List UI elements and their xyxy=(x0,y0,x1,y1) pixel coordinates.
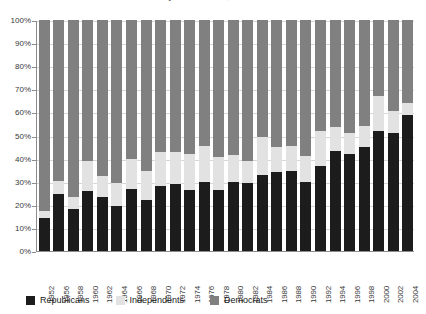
bar-segment-republicans-1978 xyxy=(213,190,224,251)
plot-area xyxy=(36,21,414,252)
bar-segment-republicans-1958 xyxy=(68,209,79,251)
y-axis-tick-label: 30% xyxy=(15,179,31,187)
bar-1980 xyxy=(228,20,239,251)
bar-segment-democrats-2002 xyxy=(388,20,399,111)
y-axis-tick-label: 100% xyxy=(11,17,31,25)
bar-segment-democrats-1992 xyxy=(315,20,326,131)
bar-segment-republicans-1994 xyxy=(330,151,341,251)
bar-2002 xyxy=(388,20,399,251)
bar-segment-republicans-1992 xyxy=(315,166,326,251)
legend-swatch-independents xyxy=(116,296,125,305)
legend-item-independents[interactable]: Independents xyxy=(116,295,185,305)
bar-1992 xyxy=(315,20,326,251)
bar-segment-independents-1986 xyxy=(271,147,282,172)
bar-segment-republicans-1964 xyxy=(111,206,122,251)
bar-segment-independents-1960 xyxy=(82,161,93,191)
legend-swatch-democrats xyxy=(210,296,219,305)
bar-segment-independents-1964 xyxy=(111,183,122,206)
gridline xyxy=(37,90,414,91)
bar-1976 xyxy=(199,20,210,251)
legend-label: Independents xyxy=(130,295,185,305)
bar-segment-republicans-1966 xyxy=(126,189,137,251)
bar-segment-democrats-1984 xyxy=(257,20,268,137)
bar-1970 xyxy=(155,20,166,251)
y-axis-tick-label: 20% xyxy=(15,202,31,210)
bar-segment-democrats-1968 xyxy=(141,20,152,171)
bar-segment-republicans-1968 xyxy=(141,200,152,251)
bar-segment-independents-1982 xyxy=(242,161,253,183)
bar-segment-republicans-1952 xyxy=(39,218,50,251)
bar-segment-independents-1966 xyxy=(126,159,137,189)
bar-segment-republicans-1956 xyxy=(53,194,64,251)
bar-segment-republicans-1974 xyxy=(184,190,195,251)
bar-1994 xyxy=(330,20,341,251)
bar-segment-independents-1968 xyxy=(141,171,152,200)
bar-1966 xyxy=(126,20,137,251)
bar-segment-independents-1996 xyxy=(344,133,355,154)
y-axis-tick-label: 60% xyxy=(15,109,31,117)
bar-segment-democrats-2004 xyxy=(402,20,413,103)
bar-1974 xyxy=(184,20,195,251)
bar-segment-democrats-1980 xyxy=(228,20,239,155)
bar-segment-independents-1958 xyxy=(68,197,79,210)
bar-segment-independents-1994 xyxy=(330,127,341,150)
legend-swatch-republicans xyxy=(26,296,35,305)
y-axis-tick-label: 50% xyxy=(15,133,31,141)
bar-segment-independents-1980 xyxy=(228,155,239,182)
gridline xyxy=(37,160,414,161)
legend-label: Democrats xyxy=(224,295,268,305)
bar-segment-republicans-1988 xyxy=(286,171,297,251)
bar-segment-independents-1992 xyxy=(315,131,326,166)
y-axis: 0%10%20%30%40%50%60%70%80%90%100% xyxy=(0,21,36,252)
legend-item-republicans[interactable]: Republicans xyxy=(26,295,90,305)
bar-segment-democrats-1964 xyxy=(111,20,122,183)
bar-segment-republicans-1962 xyxy=(97,197,108,251)
bar-segment-democrats-1988 xyxy=(286,20,297,146)
bar-segment-independents-1984 xyxy=(257,137,268,175)
bar-segment-democrats-1976 xyxy=(199,20,210,146)
bar-segment-democrats-1998 xyxy=(359,20,370,126)
gridline xyxy=(37,44,414,45)
bar-segment-republicans-2000 xyxy=(373,131,384,251)
bar-1998 xyxy=(359,20,370,251)
bar-segment-independents-1988 xyxy=(286,146,297,171)
bar-segment-democrats-1986 xyxy=(271,20,282,147)
bar-segment-independents-1976 xyxy=(199,146,210,182)
y-axis-tick-label: 90% xyxy=(15,40,31,48)
bar-segment-republicans-1996 xyxy=(344,154,355,251)
bar-segment-democrats-1972 xyxy=(170,20,181,152)
bar-2004 xyxy=(402,20,413,251)
bar-1960 xyxy=(82,20,93,251)
bar-segment-democrats-1994 xyxy=(330,20,341,127)
bar-segment-independents-1978 xyxy=(213,157,224,189)
bar-segment-independents-2002 xyxy=(388,111,399,133)
bar-segment-independents-2000 xyxy=(373,96,384,131)
stacked-bar-chart: Party Identification, 1952-2004 0%10%20%… xyxy=(0,0,426,314)
bar-1972 xyxy=(170,20,181,251)
bar-segment-democrats-1996 xyxy=(344,20,355,133)
y-axis-tick-label: 0% xyxy=(19,248,31,256)
bar-1988 xyxy=(286,20,297,251)
bar-segment-republicans-1982 xyxy=(242,183,253,251)
gridline xyxy=(37,183,414,184)
gridline xyxy=(37,21,414,22)
bar-segment-republicans-1980 xyxy=(228,182,239,251)
bar-segment-independents-1998 xyxy=(359,126,370,147)
bar-segment-republicans-1972 xyxy=(170,184,181,251)
y-axis-tick-label: 80% xyxy=(15,63,31,71)
bar-segment-democrats-1960 xyxy=(82,20,93,161)
y-axis-tick-label: 10% xyxy=(15,225,31,233)
bar-1956 xyxy=(53,20,64,251)
bar-segment-republicans-1976 xyxy=(199,182,210,251)
bar-segment-democrats-1958 xyxy=(68,20,79,197)
bar-segment-republicans-1998 xyxy=(359,147,370,251)
bar-2000 xyxy=(373,20,384,251)
bar-1964 xyxy=(111,20,122,251)
bar-1962 xyxy=(97,20,108,251)
legend-label: Republicans xyxy=(40,295,90,305)
bar-segment-democrats-1952 xyxy=(39,20,50,211)
gridline xyxy=(37,113,414,114)
legend-item-democrats[interactable]: Democrats xyxy=(210,295,268,305)
bar-segment-independents-1974 xyxy=(184,154,195,190)
bar-1968 xyxy=(141,20,152,251)
